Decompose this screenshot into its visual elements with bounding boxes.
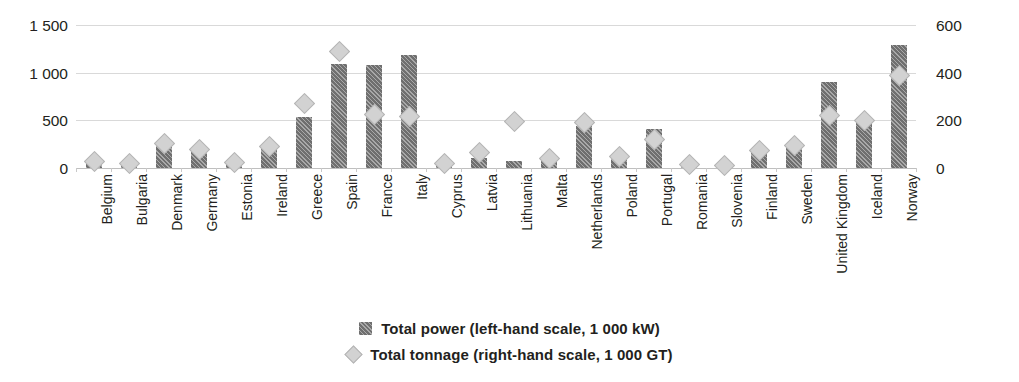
x-axis-tick	[671, 168, 672, 172]
bar-total-power	[891, 45, 907, 168]
x-axis-tick	[356, 168, 357, 172]
data-point-group	[496, 25, 531, 168]
x-axis-tick	[531, 168, 532, 172]
x-axis-label-belgium: Belgium	[100, 174, 114, 225]
x-axis-label-romania: Romania	[695, 174, 709, 230]
x-axis-tick	[741, 168, 742, 172]
x-axis-label-bulgaria: Bulgaria	[135, 174, 149, 225]
x-axis-label-united-kingdom: United Kingdom	[835, 174, 849, 274]
x-axis-label-malta: Malta	[555, 174, 569, 208]
bar-total-power	[331, 64, 347, 168]
marker-total-tonnage	[119, 153, 140, 174]
y-axis-right-tick-600: 600	[936, 18, 962, 34]
x-axis-tick	[286, 168, 287, 172]
x-axis-label-iceland: Iceland	[870, 174, 884, 219]
x-axis-tick	[916, 168, 917, 172]
x-axis-label-france: France	[380, 174, 394, 218]
x-axis-label-sweden: Sweden	[800, 174, 814, 225]
data-series-layer	[76, 25, 916, 168]
x-axis-tick	[566, 168, 567, 172]
data-point-group	[741, 25, 776, 168]
marker-total-tonnage	[329, 41, 350, 62]
x-axis-tick	[321, 168, 322, 172]
x-axis-label-lithuania: Lithuania	[520, 174, 534, 231]
y-axis-left-tick-0: 0	[59, 161, 68, 177]
marker-total-tonnage	[679, 154, 700, 175]
x-axis-label-ireland: Ireland	[275, 174, 289, 217]
plot-area	[76, 25, 916, 168]
x-axis-label-slovenia: Slovenia	[730, 174, 744, 228]
x-axis-label-italy: Italy	[415, 174, 429, 200]
x-axis-tick	[601, 168, 602, 172]
x-axis-label-greece: Greece	[310, 174, 324, 220]
x-axis-label-portugal: Portugal	[660, 174, 674, 226]
marker-total-tonnage	[224, 152, 245, 173]
bar-total-power	[506, 161, 522, 168]
x-axis-tick	[251, 168, 252, 172]
legend-item-total-tonnage[interactable]: Total tonnage (right-hand scale, 1 000 G…	[346, 346, 672, 363]
chart-legend: Total power (left-hand scale, 1 000 kW) …	[0, 320, 1019, 363]
data-point-group	[76, 25, 111, 168]
marker-total-tonnage	[434, 153, 455, 174]
legend-label-total-tonnage: Total tonnage (right-hand scale, 1 000 G…	[370, 346, 672, 363]
data-point-group	[846, 25, 881, 168]
x-axis-tick	[216, 168, 217, 172]
x-axis-label-estonia: Estonia	[240, 174, 254, 221]
data-point-group	[881, 25, 916, 168]
x-axis-label-netherlands: Netherlands	[590, 174, 604, 250]
x-axis-tick	[496, 168, 497, 172]
data-point-group	[111, 25, 146, 168]
data-point-group	[636, 25, 671, 168]
data-point-group	[461, 25, 496, 168]
chart-container: 1 500 1 000 500 0 600 400 200 0 BelgiumB…	[0, 0, 1019, 382]
x-axis-category-labels: BelgiumBulgariaDenmarkGermanyEstoniaIrel…	[76, 174, 916, 284]
y-axis-left-tick-1000: 1 000	[29, 66, 68, 82]
data-point-group	[601, 25, 636, 168]
x-axis-tick	[181, 168, 182, 172]
x-axis-tick	[881, 168, 882, 172]
y-axis-right-tick-200: 200	[936, 113, 962, 129]
y-axis-right-tick-400: 400	[936, 66, 962, 82]
y-axis-right-tick-0: 0	[936, 161, 945, 177]
data-point-group	[356, 25, 391, 168]
y-axis-left-tick-1500: 1 500	[29, 18, 68, 34]
x-axis-tick	[391, 168, 392, 172]
x-axis-tick	[146, 168, 147, 172]
diamond-swatch-icon	[345, 345, 363, 363]
marker-total-tonnage	[504, 111, 525, 132]
data-point-group	[811, 25, 846, 168]
x-axis-label-denmark: Denmark	[170, 174, 184, 231]
data-point-group	[671, 25, 706, 168]
hatched-square-swatch-icon	[359, 322, 372, 335]
x-axis-label-latvia: Latvia	[485, 174, 499, 211]
data-point-group	[706, 25, 741, 168]
data-point-group	[181, 25, 216, 168]
bar-total-power	[296, 117, 312, 168]
data-point-group	[776, 25, 811, 168]
x-axis-tick	[846, 168, 847, 172]
x-axis-label-poland: Poland	[625, 174, 639, 218]
x-axis-label-cyprus: Cyprus	[450, 174, 464, 218]
marker-total-tonnage	[294, 93, 315, 114]
x-axis-tick	[461, 168, 462, 172]
data-point-group	[426, 25, 461, 168]
x-axis-label-spain: Spain	[345, 174, 359, 210]
data-point-group	[566, 25, 601, 168]
y-axis-left-tick-500: 500	[42, 113, 68, 129]
x-axis-tick	[76, 168, 77, 172]
data-point-group	[146, 25, 181, 168]
x-axis-tick	[426, 168, 427, 172]
data-point-group	[531, 25, 566, 168]
data-point-group	[286, 25, 321, 168]
legend-label-total-power: Total power (left-hand scale, 1 000 kW)	[381, 320, 660, 337]
x-axis-tick	[706, 168, 707, 172]
data-point-group	[251, 25, 286, 168]
x-axis-tick	[776, 168, 777, 172]
x-axis-tick	[811, 168, 812, 172]
data-point-group	[391, 25, 426, 168]
x-axis-tick	[111, 168, 112, 172]
x-axis-tick	[636, 168, 637, 172]
legend-item-total-power[interactable]: Total power (left-hand scale, 1 000 kW)	[359, 320, 660, 337]
x-axis-label-norway: Norway	[905, 174, 919, 221]
data-point-group	[321, 25, 356, 168]
